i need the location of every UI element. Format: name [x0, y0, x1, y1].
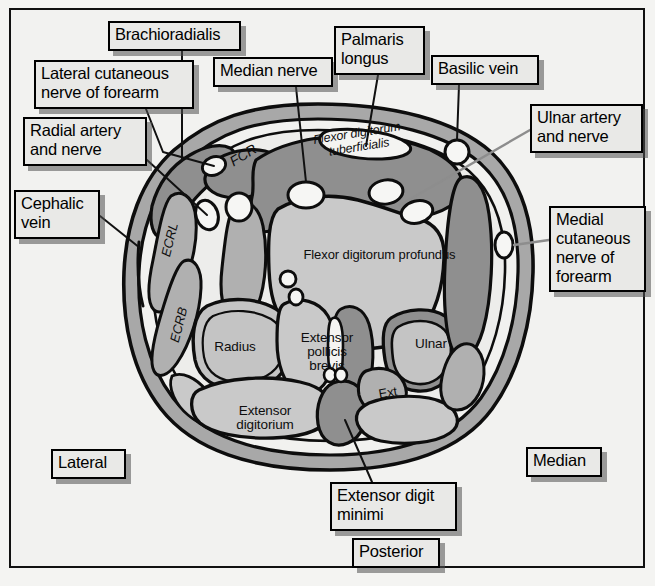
callout-extensor-digit-minimi[interactable]: Extensor digit minimi	[330, 482, 457, 531]
callout-cephalic-vein[interactable]: Cephalic vein	[14, 190, 100, 239]
callout-ulnar-artery[interactable]: Ulnar artery and nerve	[530, 104, 643, 153]
posterior-ulnar-muscle-mass	[357, 396, 458, 443]
anatomy-label-radius: Radius	[209, 340, 261, 354]
anterior-interosseous-vessel-2	[289, 289, 303, 305]
callout-palmaris-longus[interactable]: Palmaris longus	[334, 26, 425, 75]
radial-nerve-structure	[226, 193, 252, 221]
anatomy-label-ulnar: Ulnar	[409, 337, 453, 351]
callout-lateral[interactable]: Lateral	[51, 449, 126, 479]
callout-median[interactable]: Median	[526, 447, 602, 477]
medial-cutaneous-nerve-structure	[495, 232, 513, 258]
anatomy-label-ed: Extensor digitorium	[228, 404, 302, 432]
callout-basilic-vein[interactable]: Basilic vein	[431, 55, 539, 85]
callout-medial-cutaneous[interactable]: Medial cutaneous nerve of forearm	[549, 206, 646, 292]
anterior-interosseous-vessel-1	[280, 271, 296, 287]
callout-median-nerve[interactable]: Median nerve	[213, 57, 333, 87]
callout-radial-artery[interactable]: Radial artery and nerve	[23, 117, 147, 166]
median-nerve-structure	[288, 182, 324, 208]
anatomy-label-fdp: Flexor digitorum profundus	[297, 248, 462, 262]
callout-posterior[interactable]: Posterior	[352, 538, 440, 568]
figure-page: FCRFlexor digitorum tuberficialisFlexor …	[0, 0, 655, 586]
basilic-vein-structure	[445, 140, 469, 164]
anatomy-label-epb: Extensor pollicis brevis	[296, 331, 358, 373]
callout-lateral-cutaneous[interactable]: Lateral cutaneous nerve of forearm	[34, 60, 194, 109]
callout-brachioradialis[interactable]: Brachioradialis	[108, 21, 241, 51]
